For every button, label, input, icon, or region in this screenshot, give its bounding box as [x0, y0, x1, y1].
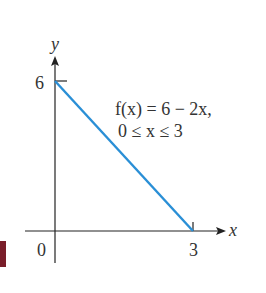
decorative-marker	[0, 241, 6, 267]
y-tick-label: 6	[35, 73, 44, 93]
chart: y x 6 0 3 f(x) = 6 − 2x, 0 ≤ x ≤ 3	[0, 0, 266, 293]
formula-line1: f(x) = 6 − 2x,	[115, 99, 212, 120]
formula-line2: 0 ≤ x ≤ 3	[118, 121, 183, 141]
x-axis-label: x	[228, 220, 237, 240]
x-tick-label: 3	[189, 240, 198, 260]
y-axis-label: y	[49, 34, 59, 54]
origin-label: 0	[37, 240, 46, 260]
